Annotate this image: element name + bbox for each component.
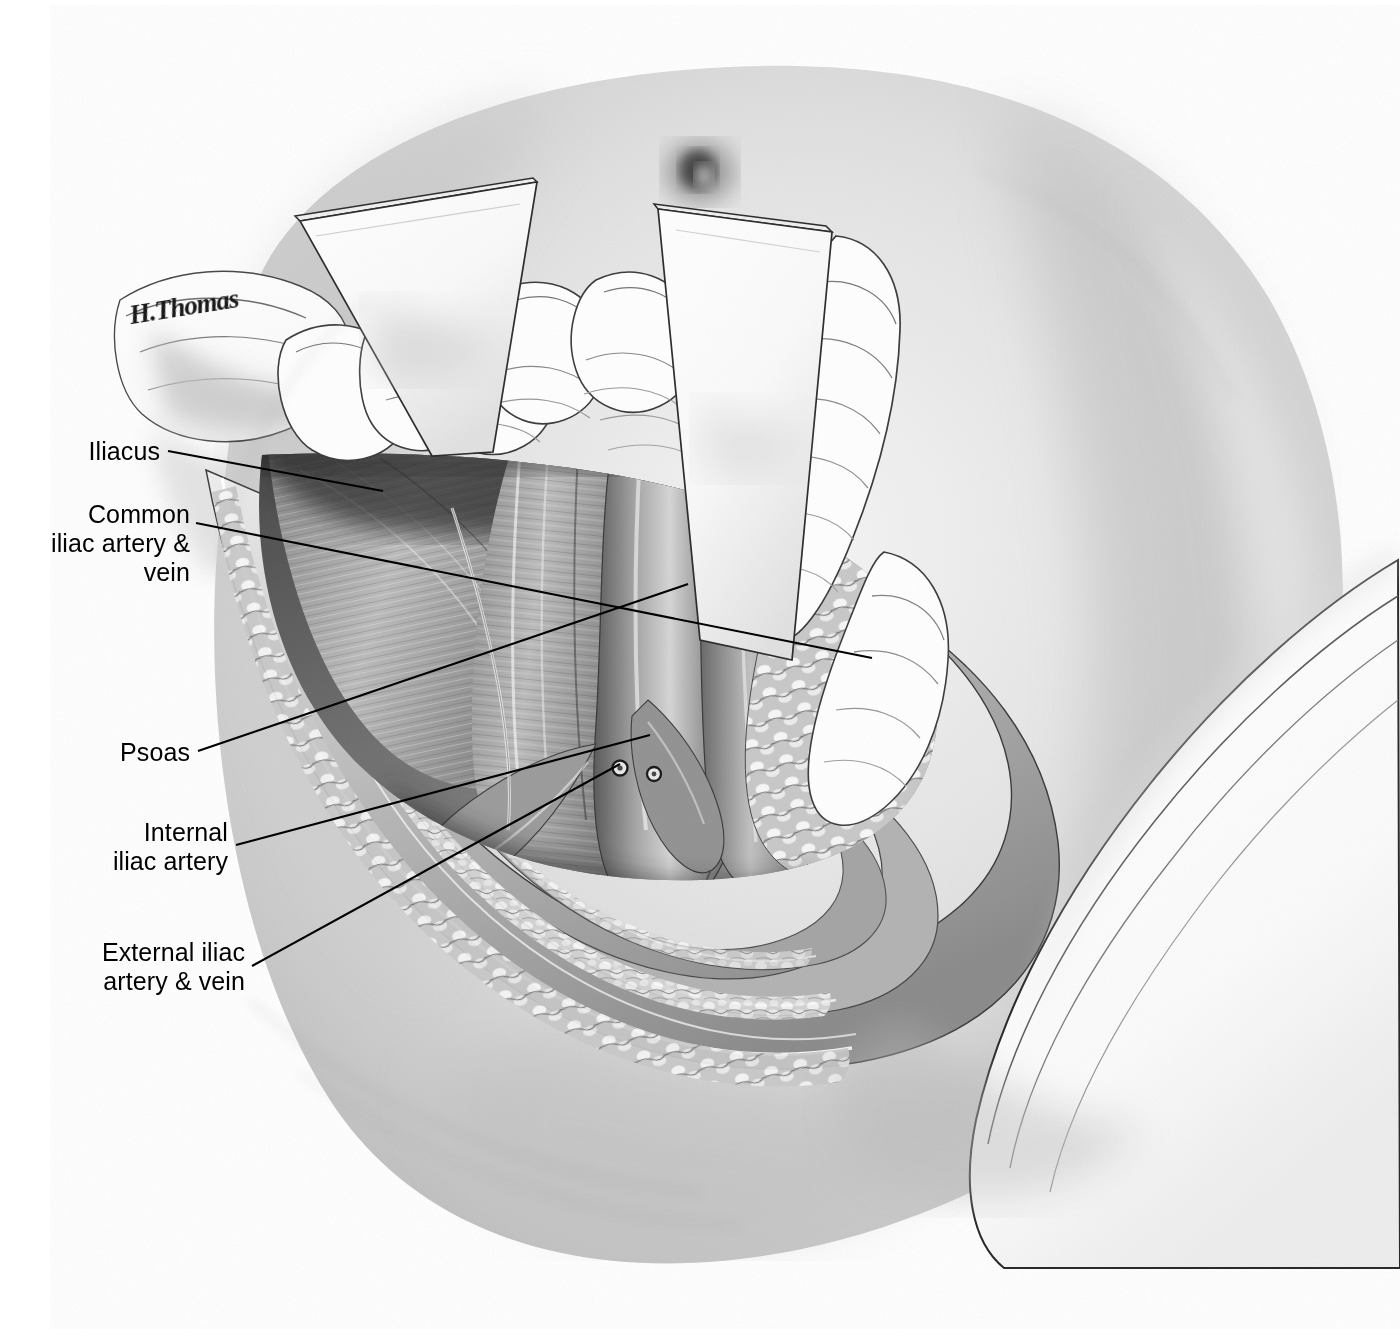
label-line: iliac artery [0, 847, 228, 876]
label-line: Iliacus [0, 437, 160, 466]
label-psoas: Psoas [0, 738, 190, 767]
label-line: Internal [0, 818, 228, 847]
label-internal-iliac: Internaliliac artery [0, 818, 228, 876]
label-line: artery & vein [0, 967, 245, 996]
label-line: Psoas [0, 738, 190, 767]
anatomical-illustration [0, 0, 1400, 1337]
label-common-iliac: Commoniliac artery &vein [0, 500, 190, 587]
label-line: iliac artery & [0, 529, 190, 558]
label-line: vein [0, 558, 190, 587]
label-external-iliac: External iliacartery & vein [0, 938, 245, 996]
label-iliacus: Iliacus [0, 437, 160, 466]
illustration-canvas: H.Thomas Iliacus Commoniliac artery &vei… [0, 0, 1400, 1337]
umbilicus [666, 142, 734, 202]
label-line: External iliac [0, 938, 245, 967]
label-line: Common [0, 500, 190, 529]
